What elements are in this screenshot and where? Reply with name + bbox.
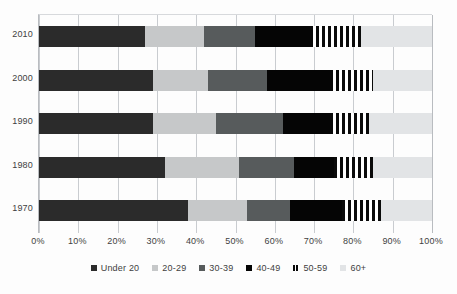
legend-item-20-29[interactable]: 20-29 <box>152 263 186 273</box>
legend-swatch-icon <box>199 265 205 271</box>
legend-item-under-20[interactable]: Under 20 <box>91 263 140 273</box>
bar-row-1970 <box>39 189 432 233</box>
bar-segment-under-20 <box>39 113 153 134</box>
bar-segment-40-49 <box>267 70 330 91</box>
bar-segment-20-29 <box>188 200 247 221</box>
legend-item-40-49[interactable]: 40-49 <box>246 263 280 273</box>
bar-rows <box>39 15 432 233</box>
x-axis-tick-40: 40% <box>186 236 205 246</box>
bar-segment-60- <box>373 70 432 91</box>
bar-segment-40-49 <box>294 157 333 178</box>
legend-label: Under 20 <box>101 263 140 273</box>
bar-segment-60- <box>381 200 432 221</box>
bar-segment-under-20 <box>39 70 153 91</box>
legend-item-30-39[interactable]: 30-39 <box>199 263 233 273</box>
legend-swatch-icon <box>91 265 97 271</box>
bar-segment-50-59 <box>310 26 361 47</box>
plot-area <box>38 14 432 233</box>
bar-segment-40-49 <box>290 200 341 221</box>
y-axis-label-2000: 2000 <box>0 73 33 83</box>
stacked-bar <box>39 70 432 91</box>
x-axis-tick-90: 90% <box>382 236 401 246</box>
bar-segment-50-59 <box>334 157 373 178</box>
stacked-bar <box>39 200 432 221</box>
bar-row-2000 <box>39 59 432 103</box>
bar-segment-20-29 <box>153 113 216 134</box>
bar-row-2010 <box>39 15 432 59</box>
legend-label: 50-59 <box>303 263 327 273</box>
y-axis-label-1980: 1980 <box>0 160 33 170</box>
legend-label: 30-39 <box>209 263 233 273</box>
x-axis-tick-50: 50% <box>225 236 244 246</box>
stacked-bar <box>39 157 432 178</box>
legend-swatch-icon <box>152 265 158 271</box>
bar-segment-under-20 <box>39 26 145 47</box>
x-axis-tick-20: 20% <box>107 236 126 246</box>
legend-item-50-59[interactable]: 50-59 <box>293 263 327 273</box>
bar-row-1980 <box>39 146 432 190</box>
bar-segment-60- <box>369 113 432 134</box>
bar-segment-50-59 <box>342 200 381 221</box>
bar-segment-30-39 <box>204 26 255 47</box>
bar-segment-50-59 <box>330 70 373 91</box>
legend-swatch-icon <box>340 265 346 271</box>
bar-segment-60- <box>361 26 432 47</box>
x-axis-tick-70: 70% <box>304 236 323 246</box>
bar-segment-20-29 <box>145 26 204 47</box>
chart-legend: Under 2020-2930-3940-4950-5960+ <box>0 263 457 273</box>
stacked-bar <box>39 26 432 47</box>
bar-segment-60- <box>373 157 432 178</box>
y-axis-label-2010: 2010 <box>0 29 33 39</box>
y-axis-label-1990: 1990 <box>0 116 33 126</box>
bar-segment-50-59 <box>330 113 369 134</box>
bar-row-1990 <box>39 102 432 146</box>
x-axis-tick-0: 0% <box>31 236 44 246</box>
legend-item-60-[interactable]: 60+ <box>340 263 366 273</box>
bar-segment-20-29 <box>153 70 208 91</box>
x-axis-tick-10: 10% <box>68 236 87 246</box>
legend-label: 20-29 <box>162 263 186 273</box>
x-axis-tick-30: 30% <box>147 236 166 246</box>
y-axis-label-1970: 1970 <box>0 203 33 213</box>
bar-segment-30-39 <box>208 70 267 91</box>
bar-segment-under-20 <box>39 157 165 178</box>
bar-segment-30-39 <box>239 157 294 178</box>
x-axis-tick-100: 100% <box>419 236 443 246</box>
x-axis-tick-80: 80% <box>343 236 362 246</box>
legend-swatch-icon <box>246 265 252 271</box>
legend-swatch-icon <box>293 265 299 271</box>
x-axis-labels: 0%10%20%30%40%50%60%70%80%90%100% <box>38 236 431 250</box>
gridline-100 <box>432 15 433 233</box>
x-axis-tick-60: 60% <box>264 236 283 246</box>
bar-segment-30-39 <box>247 200 290 221</box>
bar-segment-20-29 <box>165 157 240 178</box>
bar-segment-under-20 <box>39 200 188 221</box>
bar-segment-40-49 <box>255 26 310 47</box>
stacked-bar <box>39 113 432 134</box>
legend-label: 60+ <box>350 263 366 273</box>
bar-segment-30-39 <box>216 113 283 134</box>
stacked-bar-chart: 20102000199019801970 0%10%20%30%40%50%60… <box>0 0 457 294</box>
legend-label: 40-49 <box>256 263 280 273</box>
bar-segment-40-49 <box>283 113 330 134</box>
